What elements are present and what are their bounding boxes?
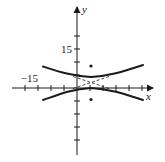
y-axis [74, 7, 80, 155]
lower-branch [43, 88, 143, 100]
y-axis-label: y [81, 3, 87, 15]
x-axis-label: x [145, 90, 151, 102]
hyperbola-diagram: 15 −15 y x [0, 0, 165, 162]
upper-branch [43, 65, 143, 77]
focus-upper [89, 64, 92, 67]
hyperbola-branches [43, 65, 143, 100]
x-tick-label-neg15: −15 [21, 72, 39, 84]
asymptotes [73, 77, 109, 89]
focus-lower [89, 98, 92, 101]
y-tick-label-15: 15 [61, 43, 73, 55]
